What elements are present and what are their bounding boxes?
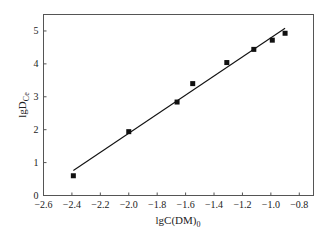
data-point-square-marker	[251, 47, 256, 52]
y-tick-label: 1	[34, 157, 39, 168]
chart: −2.6−2.4−2.2−2.0−1.8−1.6−1.4−1.2−1.0−0.8…	[0, 0, 331, 234]
y-tick-label: 0	[34, 190, 39, 201]
x-tick-label: −1.8	[148, 199, 166, 210]
data-point-square-marker	[283, 31, 288, 36]
x-tick-label: −1.6	[177, 199, 195, 210]
x-tick-label: −1.4	[205, 199, 223, 210]
y-tick-label: 5	[34, 25, 39, 36]
data-point-square-marker	[71, 173, 76, 178]
x-tick-label: −2.0	[120, 199, 138, 210]
data-points	[71, 31, 288, 178]
y-tick-label: 3	[34, 91, 39, 102]
y-axis-label: lgDCe	[16, 92, 31, 118]
y-tick-label: 2	[34, 124, 39, 135]
data-point-square-marker	[190, 81, 195, 86]
data-point-square-marker	[126, 129, 131, 134]
data-point-square-marker	[270, 38, 275, 43]
x-tick-label: −2.4	[63, 199, 81, 210]
y-axis-ticks: 012345	[34, 25, 47, 201]
x-tick-label: −2.2	[91, 199, 109, 210]
x-axis-label: lgC(DM)0	[156, 214, 201, 229]
y-tick-label: 4	[34, 58, 39, 69]
x-tick-label: −0.8	[290, 199, 308, 210]
x-tick-label: −1.0	[262, 199, 280, 210]
data-point-square-marker	[224, 60, 229, 65]
data-point-square-marker	[175, 100, 180, 105]
x-tick-label: −1.2	[233, 199, 251, 210]
